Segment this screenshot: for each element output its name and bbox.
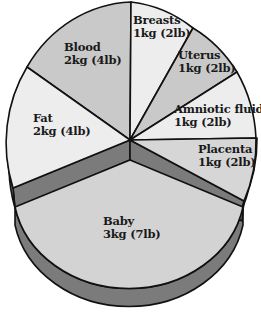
label-baby-value: 3kg (7lb) (103, 228, 161, 241)
label-fat: Fat 2kg (4lb) (33, 112, 91, 138)
label-amniotic-fluid: Amniotic fluid 1kg (2lb) (174, 103, 261, 129)
label-breasts-value: 1kg (2lb) (133, 27, 191, 40)
label-placenta-value: 1kg (2lb) (198, 156, 256, 169)
label-uterus-value: 1kg (2lb) (178, 62, 236, 75)
label-baby: Baby 3kg (7lb) (103, 215, 161, 241)
label-uterus: Uterus 1kg (2lb) (178, 49, 236, 75)
label-blood-value: 2kg (4lb) (64, 54, 122, 67)
label-placenta: Placenta 1kg (2lb) (198, 143, 256, 169)
label-blood: Blood 2kg (4lb) (64, 41, 122, 67)
label-amniotic-fluid-value: 1kg (2lb) (174, 116, 261, 129)
label-fat-value: 2kg (4lb) (33, 125, 91, 138)
label-breasts: Breasts 1kg (2lb) (133, 14, 191, 40)
